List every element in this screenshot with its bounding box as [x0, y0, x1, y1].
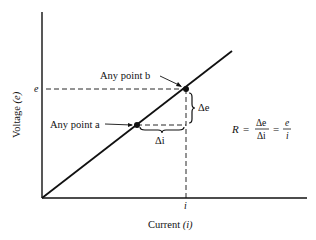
- delta-e-label: Δe: [198, 102, 210, 113]
- resistance-formula: R = Δe Δi = e i: [231, 118, 291, 141]
- point-a-marker: [134, 122, 140, 128]
- formula-frac2-num: e: [285, 118, 289, 128]
- ohms-law-diagram: Any point b Any point a Δi Δe e i Curren…: [0, 0, 316, 240]
- point-a-label: Any point a: [50, 119, 100, 130]
- formula-frac2-den: i: [286, 131, 289, 141]
- y-axis-title: Voltage (e): [11, 91, 23, 138]
- delta-i-label: Δi: [155, 135, 165, 146]
- formula-frac1-den: Δi: [257, 131, 266, 141]
- diagram-canvas: Any point b Any point a Δi Δe e i Curren…: [0, 0, 316, 240]
- formula-eq2: =: [273, 123, 279, 135]
- formula-r: R: [231, 123, 239, 135]
- point-b-marker: [183, 86, 189, 92]
- point-b-arrowhead-icon: [176, 82, 182, 87]
- delta-i-brace: [140, 127, 184, 133]
- point-a-arrow: [105, 124, 132, 125]
- x-tick-i: i: [184, 200, 187, 211]
- formula-frac1-num: Δe: [256, 118, 266, 128]
- point-b-label: Any point b: [100, 70, 150, 81]
- delta-e-brace: [189, 93, 195, 123]
- x-axis-title: Current (i): [148, 219, 193, 231]
- point-a-arrowhead-icon: [128, 123, 133, 127]
- y-tick-e: e: [34, 83, 39, 94]
- formula-eq1: =: [243, 123, 249, 135]
